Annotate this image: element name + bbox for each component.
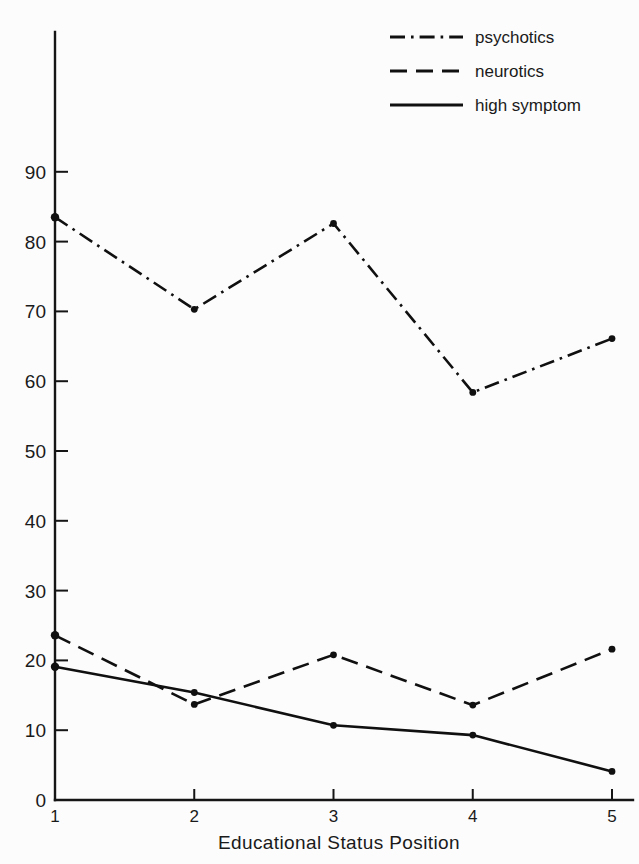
series-line-high-symptom — [55, 667, 612, 772]
series-line-neurotics — [55, 635, 612, 705]
y-tick-label: 20 — [25, 650, 46, 671]
data-point — [51, 631, 59, 639]
legend-label-psychotics: psychotics — [475, 28, 554, 47]
y-tick-label: 40 — [25, 511, 46, 532]
series-psychotics — [51, 213, 616, 396]
series-line-psychotics — [55, 217, 612, 392]
data-point — [51, 213, 59, 221]
y-tick-label: 90 — [25, 162, 46, 183]
x-axis-tick-labels: 12345 — [50, 807, 616, 826]
data-series-group — [51, 213, 616, 775]
data-point — [330, 651, 337, 658]
x-axis-ticks — [194, 789, 612, 800]
data-point — [609, 768, 616, 775]
legend-label-neurotics: neurotics — [475, 62, 544, 81]
y-tick-label: 30 — [25, 581, 46, 602]
data-point — [330, 722, 337, 729]
x-tick-label: 5 — [607, 807, 616, 826]
data-point — [469, 702, 476, 709]
data-point — [191, 689, 198, 696]
x-tick-label: 2 — [190, 807, 199, 826]
data-point — [191, 306, 198, 313]
y-tick-label: 50 — [25, 441, 46, 462]
data-point — [51, 663, 59, 671]
data-point — [469, 389, 476, 396]
series-neurotics — [51, 631, 616, 708]
x-axis-title: Educational Status Position — [218, 832, 460, 853]
y-axis-ticks — [55, 172, 68, 730]
chart-container: 0102030405060708090 12345 psychoticsneur… — [0, 0, 639, 864]
data-point — [191, 701, 198, 708]
data-point — [469, 732, 476, 739]
x-tick-label: 1 — [50, 807, 59, 826]
y-tick-label: 60 — [25, 371, 46, 392]
y-axis-tick-labels: 0102030405060708090 — [25, 162, 46, 811]
data-point — [609, 335, 616, 342]
data-point — [330, 220, 337, 227]
data-point — [609, 646, 616, 653]
line-chart: 0102030405060708090 12345 psychoticsneur… — [0, 0, 639, 864]
x-tick-label: 4 — [468, 807, 477, 826]
series-high-symptom — [51, 663, 616, 775]
y-tick-label: 10 — [25, 720, 46, 741]
x-tick-label: 3 — [329, 807, 338, 826]
y-tick-label: 80 — [25, 232, 46, 253]
y-tick-label: 0 — [35, 790, 46, 811]
legend-label-high-symptom: high symptom — [475, 96, 581, 115]
chart-legend: psychoticsneuroticshigh symptom — [390, 28, 581, 115]
y-tick-label: 70 — [25, 301, 46, 322]
axes-group — [55, 32, 633, 800]
